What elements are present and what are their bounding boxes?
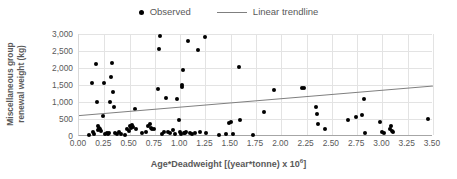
gridline-vertical [433,34,434,135]
y-axis-title: Miscellaneous group renewal weight (kg) [2,28,28,140]
y-axis-tick-label: 2,000 [52,64,73,72]
x-axis-tick-label: 1.00 [171,139,187,147]
legend-line-icon [217,12,247,13]
x-axis-tick-label: 2.75 [348,139,364,147]
y-axis-tick-label: 1,000 [52,98,73,106]
legend-marker-icon [139,10,144,15]
trendline [79,34,432,135]
y-axis-title-line1: Miscellaneous group [5,42,15,125]
plot-inner [79,34,432,135]
legend-label-linear-trendline: Linear trendline [253,7,319,17]
x-axis-tick-label: 0.50 [120,139,136,147]
x-axis-tick-label: 1.50 [222,139,238,147]
x-axis-tick-label: 0.00 [70,139,86,147]
y-axis-tick-label: 2,500 [52,47,73,55]
x-axis-tick-label: 2.25 [297,139,313,147]
legend-item-linear-trendline: Linear trendline [217,7,319,17]
scatter-chart: Observed Linear trendline Miscellaneous … [0,0,457,179]
x-axis-tick-label: 2.50 [323,139,339,147]
x-axis-tick-label: 1.25 [196,139,212,147]
x-axis-tick-label: 3.25 [399,139,415,147]
x-axis-title: Age*Deadweight [(year*tonne) x 106] [0,158,457,169]
x-axis-tick-label: 3.00 [373,139,389,147]
y-axis-tick-label: 500 [59,115,73,123]
y-axis-tick-labels: 05001,0001,5002,0002,5003,000 [28,28,76,142]
x-axis-tick-label: 1.75 [247,139,263,147]
y-axis-tick-label: 3,000 [52,30,73,38]
y-axis-tick-label: 1,500 [52,81,73,89]
y-axis-title-line2: renewal weight (kg) [15,45,25,123]
x-axis-tick-label: 0.25 [95,139,111,147]
x-axis-tick-label: 2.00 [272,139,288,147]
x-axis-title-suffix: ] [303,159,306,169]
legend-label-observed: Observed [150,7,191,17]
x-axis-tick-labels: 0.000.250.500.751.001.251.501.752.002.25… [78,139,432,152]
plot-area [78,34,432,136]
chart-legend: Observed Linear trendline [0,4,457,20]
x-axis-title-prefix: Age*Deadweight [(year*tonne) x 10 [151,159,300,169]
x-axis-tick-label: 3.50 [424,139,440,147]
legend-item-observed: Observed [139,7,191,17]
x-axis-tick-label: 0.75 [146,139,162,147]
